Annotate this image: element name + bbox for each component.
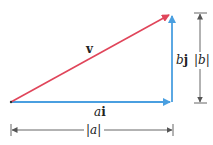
label-abs-b: |b| bbox=[194, 54, 210, 66]
origin-point bbox=[10, 101, 12, 103]
vector-diagram bbox=[0, 0, 213, 145]
label-v-text: v bbox=[86, 42, 93, 56]
label-v: v bbox=[86, 43, 93, 55]
label-bj-coef: b bbox=[176, 53, 184, 67]
label-abs-b-inner: b bbox=[198, 53, 206, 67]
label-ai-unit: i bbox=[101, 105, 106, 119]
label-bj: bj bbox=[176, 54, 188, 66]
label-abs-a: |a| bbox=[86, 124, 101, 136]
label-bj-unit: j bbox=[184, 53, 188, 67]
vector-v-arrow bbox=[11, 15, 169, 102]
label-ai: ai bbox=[94, 106, 106, 118]
